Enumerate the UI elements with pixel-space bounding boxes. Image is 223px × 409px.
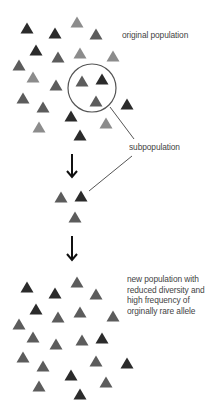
triangle-light-icon [100,118,113,129]
triangle-light-icon [71,17,84,28]
triangle-medium-icon [13,60,26,71]
triangle-medium-icon [55,192,68,203]
triangle-medium-icon [52,52,65,63]
triangle-light-icon [33,122,46,133]
triangle-medium-icon [90,356,103,367]
triangle-medium-icon [76,76,89,87]
triangle-medium-icon [90,289,103,300]
triangle-medium-icon [37,102,50,113]
triangle-dark-icon [96,74,109,85]
triangle-medium-icon [17,352,30,363]
new-population-label-line: orginally rare allele [127,306,205,317]
triangle-dark-icon [96,333,109,344]
triangle-dark-icon [30,304,43,315]
triangle-medium-icon [71,277,84,288]
triangle-dark-icon [121,358,134,369]
triangle-medium-icon [76,335,89,346]
new-population-group [13,277,134,400]
triangle-dark-icon [75,191,88,202]
triangle-medium-icon [37,361,50,372]
new-population-label-line: new population with [127,274,205,285]
connector-lines [89,107,134,191]
triangle-medium-icon [13,319,26,330]
triangle-dark-icon [21,23,34,34]
triangle-dark-icon [49,288,62,299]
subpopulation-label: subpopulation [129,142,180,153]
connector-line [89,156,132,191]
triangle-medium-icon [33,381,46,392]
arrow-down-icon [67,236,77,260]
original-population-group [13,17,134,141]
triangle-medium-icon [74,307,87,318]
new-population-label-line: high frequency of [127,295,205,306]
triangle-dark-icon [21,282,34,293]
triangle-dark-icon [49,28,62,39]
triangle-dark-icon [65,370,78,381]
arrow-down-icon [67,154,77,177]
triangle-dark-icon [65,111,78,122]
subpopulation-group [55,191,88,223]
triangle-medium-icon [100,377,113,388]
triangle-medium-icon [50,80,63,91]
genetic-drift-diagram [0,0,223,409]
triangle-light-icon [107,51,120,62]
arrows [67,154,77,260]
triangle-medium-icon [107,311,120,322]
triangle-medium-icon [17,93,30,104]
triangle-medium-icon [50,339,63,350]
triangle-dark-icon [74,389,87,400]
original-population-label: original population [122,30,188,41]
triangle-dark-icon [30,45,43,56]
triangle-medium-icon [90,96,103,107]
connector-line [110,107,134,139]
triangle-medium-icon [52,312,65,323]
triangle-light-icon [27,72,40,83]
triangle-dark-icon [121,99,134,110]
triangle-medium-icon [90,29,103,40]
new-population-label: new population with reduced diversity an… [127,274,205,316]
triangle-medium-icon [69,212,82,223]
triangle-medium-icon [27,332,40,343]
triangle-dark-icon [74,130,87,141]
triangle-light-icon [74,48,87,59]
